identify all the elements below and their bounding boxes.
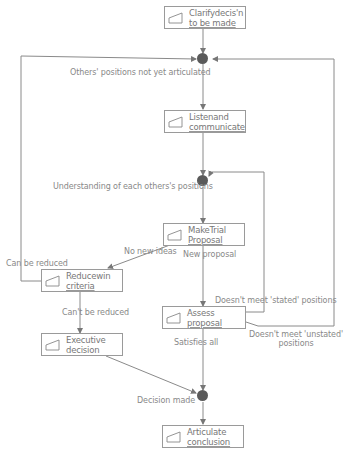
edge-label-satisfies-all: Satisfies all: [174, 338, 218, 347]
node-label: Articulate: [187, 427, 230, 437]
node-label: to be made: [189, 18, 243, 28]
activity-icon: [168, 116, 184, 128]
junction-decision-made[interactable]: [197, 390, 208, 401]
edge-label-doesnt-meet-stated: Doesn't meet 'stated' positions: [215, 296, 336, 305]
edge-label-cant-be-reduced: Can't be reduced: [62, 308, 129, 317]
activity-icon: [45, 339, 61, 351]
edge-label-no-new-ideas: No new ideas: [124, 247, 177, 256]
node-label: Reducewin: [66, 271, 110, 281]
edge-label-line: positions: [246, 339, 346, 348]
node-reduce-win-criteria[interactable]: Reducewincriteria: [41, 269, 123, 292]
node-make-trial-proposal[interactable]: MakeTrialProposal: [163, 223, 245, 246]
node-label: conclusion: [187, 437, 230, 447]
node-label: criteria: [66, 281, 110, 291]
activity-icon: [45, 275, 61, 287]
node-articulate-conclusion[interactable]: Articulateconclusion: [162, 425, 244, 448]
edge-label-new-proposal: New proposal: [183, 250, 236, 259]
junction-others-positions[interactable]: [197, 53, 208, 64]
activity-icon: [166, 431, 182, 443]
node-listen-communicate[interactable]: Listenandcommunicate: [164, 110, 246, 133]
node-executive-decision[interactable]: Executivedecision: [41, 333, 123, 356]
junction-label: Understanding of each others's positions: [53, 182, 213, 191]
node-label: Clarifydecis'n: [189, 8, 243, 18]
junction-label: Decision made: [137, 396, 195, 405]
edge-label-can-be-reduced: Can be reduced: [6, 259, 68, 268]
edge-label-line: Doesn't meet 'unstated': [246, 330, 346, 339]
node-label: communicate: [189, 122, 245, 132]
node-label: decision: [66, 345, 106, 355]
activity-icon: [168, 12, 184, 24]
node-label: Executive: [66, 335, 106, 345]
node-clarify-decision[interactable]: Clarifydecis'nto be made: [164, 6, 246, 29]
node-label: MakeTrial: [188, 225, 226, 235]
node-label: Listenand: [189, 112, 245, 122]
node-assess-proposal[interactable]: Assessproposal: [162, 306, 246, 329]
junction-label: Others' positions not yet articulated: [70, 68, 211, 77]
node-label: proposal: [187, 318, 222, 328]
activity-icon: [167, 229, 183, 241]
node-label: Proposal: [188, 235, 226, 245]
activity-icon: [166, 312, 182, 324]
node-label: Assess: [187, 308, 222, 318]
edge-label-doesnt-meet-unstated: Doesn't meet 'unstated' positions: [246, 330, 346, 348]
